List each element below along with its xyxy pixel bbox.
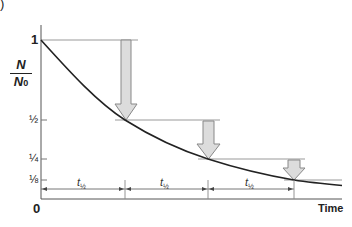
y-label-denominator-sub: 0 xyxy=(23,78,28,88)
dimension-arrowhead xyxy=(42,187,47,191)
x-axis-label: Time xyxy=(318,202,343,214)
y-tick-half: ½ xyxy=(29,113,38,125)
arrow-down-icon xyxy=(115,40,137,120)
decay-chart xyxy=(0,0,352,227)
origin-label: 0 xyxy=(33,201,40,216)
dimension-arrowhead xyxy=(119,187,124,191)
dimension-arrowhead xyxy=(209,187,214,191)
half-life-label-1: t½ xyxy=(77,176,86,190)
y-tick-eighth: ⅛ xyxy=(29,173,38,185)
y-label-numerator: N xyxy=(16,57,25,72)
panel-label: ) xyxy=(0,0,4,11)
dimension-arrowhead xyxy=(126,187,131,191)
arrow-down-icon xyxy=(283,160,305,180)
y-label-denominator: N xyxy=(14,74,23,89)
arrow-down-icon xyxy=(197,121,220,159)
half-life-label-3: t½ xyxy=(245,176,254,190)
y-tick-quarter: ¼ xyxy=(29,152,38,164)
dimension-arrowhead xyxy=(288,187,293,191)
y-tick-1: 1 xyxy=(31,32,38,47)
y-axis-label: N N0 xyxy=(10,58,32,90)
dimension-arrowhead xyxy=(202,187,207,191)
half-life-label-2: t½ xyxy=(160,176,169,190)
